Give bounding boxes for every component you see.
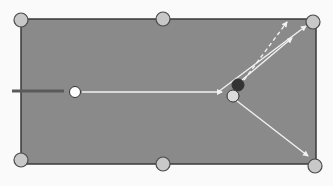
dark-ball — [232, 79, 244, 91]
cue-ball — [70, 87, 81, 98]
pocket-bottom-right — [308, 159, 322, 173]
billiard-diagram — [0, 0, 333, 186]
pocket-top-left — [14, 13, 28, 27]
pocket-top-middle — [156, 12, 170, 26]
pocket-top-right — [306, 15, 320, 29]
pocket-bottom-left — [14, 153, 28, 167]
light-ball — [227, 90, 239, 102]
pocket-bottom-middle — [156, 157, 170, 171]
